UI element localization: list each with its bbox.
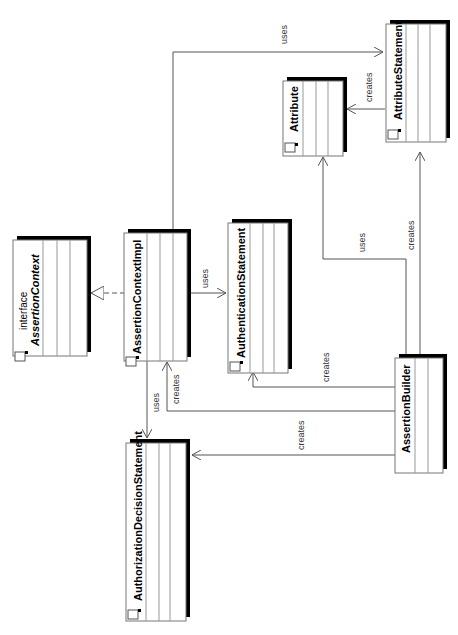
class-name-attribute: Attribute bbox=[288, 86, 300, 132]
dep-builder-uses-attribute bbox=[323, 157, 406, 355]
class-name-authorization-decision-statement: AuthorizationDecisionStatement bbox=[132, 431, 144, 601]
dep-impl-uses-attrstmt bbox=[173, 52, 383, 232]
class-authorization-decision-statement[interactable]: AuthorizationDecisionStatement bbox=[126, 431, 190, 621]
class-assertion-builder[interactable]: AssertionBuilder bbox=[395, 354, 447, 473]
label-uses-attribute: uses bbox=[357, 232, 367, 252]
label-uses-authn: uses bbox=[200, 268, 210, 288]
label-creates-attribute: creates bbox=[364, 72, 374, 102]
class-authentication-statement[interactable]: AuthenticationStatement bbox=[228, 219, 292, 373]
class-attribute[interactable]: Attribute bbox=[283, 77, 347, 156]
class-name-assertion-builder: AssertionBuilder bbox=[400, 364, 412, 453]
label-creates-authz: creates bbox=[296, 420, 306, 450]
label-creates-attrstmt: creates bbox=[406, 220, 416, 250]
class-name-authentication-statement: AuthenticationStatement bbox=[235, 227, 247, 358]
class-assertion-context[interactable]: interface AssertionContext bbox=[13, 236, 91, 361]
class-name-attribute-statement: AttributeStatement bbox=[392, 21, 404, 120]
package-icon bbox=[128, 610, 138, 619]
package-icon bbox=[285, 143, 295, 152]
class-attribute-statement[interactable]: AttributeStatement bbox=[386, 20, 450, 142]
class-assertion-context-impl[interactable]: AssertionContextImpl bbox=[124, 229, 191, 366]
label-creates-impl: creates bbox=[171, 374, 181, 404]
uml-diagram-canvas: uses uses uses creates creates creates u… bbox=[0, 0, 458, 635]
label-uses-authz: uses bbox=[151, 392, 161, 412]
package-icon bbox=[230, 362, 240, 371]
package-icon bbox=[15, 352, 25, 361]
class-name-assertion-context: AssertionContext bbox=[29, 253, 41, 347]
stereotype-interface: interface bbox=[18, 291, 29, 330]
package-icon bbox=[126, 357, 136, 366]
label-uses-attrstmt: uses bbox=[279, 24, 289, 44]
label-creates-authn: creates bbox=[321, 352, 331, 382]
class-name-assertion-context-impl: AssertionContextImpl bbox=[131, 240, 143, 354]
package-icon bbox=[388, 130, 398, 139]
